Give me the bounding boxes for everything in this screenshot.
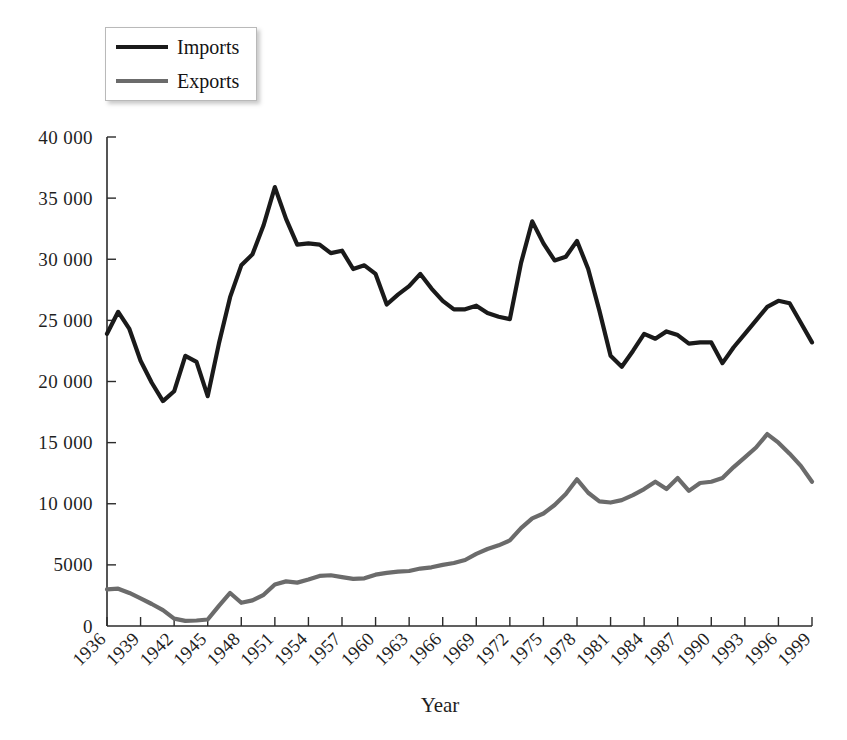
x-tick-marks <box>107 617 812 626</box>
x-tick-label: 1987 <box>639 629 680 670</box>
x-tick-label: 1948 <box>203 629 244 670</box>
x-tick-label: 1993 <box>707 629 748 670</box>
y-tick-label: 10 000 <box>38 493 93 514</box>
x-axis-group: 1936193919421945194819511954195719601963… <box>69 617 815 670</box>
x-tick-labels: 1936193919421945194819511954195719601963… <box>69 629 815 670</box>
x-tick-label: 1990 <box>673 629 714 670</box>
data-series-group <box>107 187 812 621</box>
x-axis-title: Year <box>421 693 460 717</box>
y-tick-label: 30 000 <box>38 249 93 270</box>
y-axis-group: 0500010 00015 00020 00025 00030 00035 00… <box>38 127 116 637</box>
x-tick-label: 1978 <box>539 629 580 670</box>
line-chart: 0500010 00015 00020 00025 00030 00035 00… <box>0 0 847 740</box>
x-tick-label: 1975 <box>505 629 546 670</box>
legend-swatch-imports <box>116 45 168 49</box>
series-line-exports <box>107 434 812 621</box>
legend-item-imports: Imports <box>116 35 256 59</box>
y-tick-label: 25 000 <box>38 310 93 331</box>
y-tick-label: 15 000 <box>38 432 93 453</box>
y-tick-marks <box>107 137 116 565</box>
chart-legend: Imports Exports <box>105 27 257 101</box>
y-tick-label: 40 000 <box>38 127 93 148</box>
x-tick-label: 1951 <box>237 629 278 670</box>
x-tick-label: 1996 <box>740 629 781 670</box>
x-tick-label: 1969 <box>438 629 479 670</box>
x-tick-label: 1954 <box>270 629 311 670</box>
legend-label-imports: Imports <box>177 37 239 57</box>
y-tick-label: 5000 <box>53 554 93 575</box>
legend-item-exports: Exports <box>116 69 256 93</box>
x-tick-label: 1999 <box>774 629 815 670</box>
x-tick-label: 1966 <box>404 629 445 670</box>
x-tick-label: 1945 <box>169 629 210 670</box>
y-tick-labels: 0500010 00015 00020 00025 00030 00035 00… <box>38 127 93 637</box>
y-tick-label: 20 000 <box>38 371 93 392</box>
x-tick-label: 1963 <box>371 629 412 670</box>
x-tick-label: 1957 <box>304 629 345 670</box>
x-tick-label: 1981 <box>572 629 613 670</box>
y-tick-label: 35 000 <box>38 188 93 209</box>
legend-rows: Imports Exports <box>106 28 256 100</box>
x-tick-label: 1936 <box>69 629 110 670</box>
x-tick-label: 1984 <box>606 629 647 670</box>
legend-swatch-exports <box>116 79 168 83</box>
x-tick-label: 1942 <box>136 629 177 670</box>
series-line-imports <box>107 187 812 401</box>
x-tick-label: 1972 <box>472 629 513 670</box>
legend-label-exports: Exports <box>177 71 239 91</box>
x-tick-label: 1960 <box>337 629 378 670</box>
chart-canvas: 0500010 00015 00020 00025 00030 00035 00… <box>0 0 847 740</box>
x-tick-label: 1939 <box>102 629 143 670</box>
